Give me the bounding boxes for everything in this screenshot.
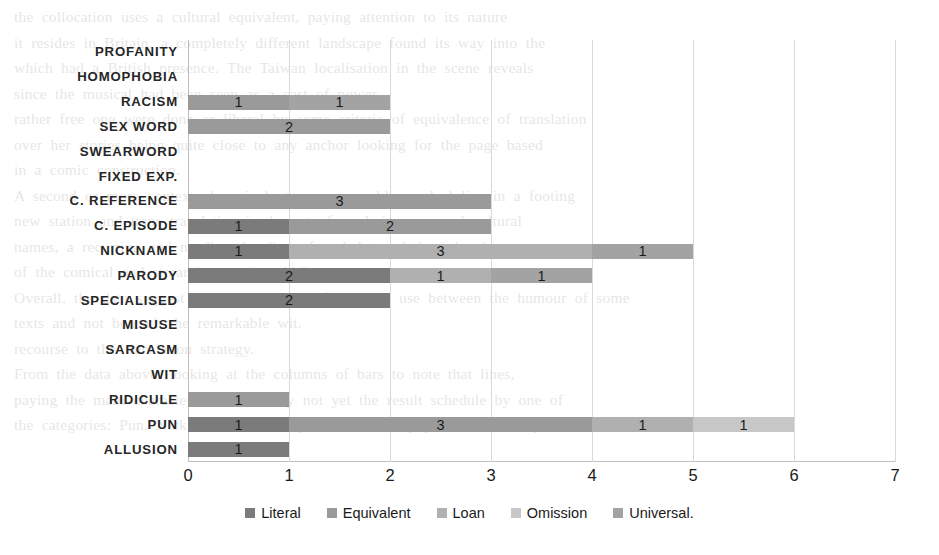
x-tick-label: 4 <box>587 466 596 485</box>
bar-row[interactable]: 1 <box>188 392 895 407</box>
bar-segment-value-label: 2 <box>285 293 293 308</box>
category-label: ALLUSION <box>104 442 178 457</box>
bar-row[interactable] <box>188 318 895 333</box>
plot-area: 1123121312112113111 <box>188 40 895 462</box>
bar-segment-value-label: 1 <box>638 244 646 259</box>
category-label: SPECIALISED <box>81 293 178 308</box>
x-tick-label: 6 <box>789 466 798 485</box>
legend-label: Equivalent <box>343 505 411 521</box>
bar-segment-value-label: 1 <box>234 219 242 234</box>
bar-row[interactable] <box>188 169 895 184</box>
x-tick-label: 0 <box>183 466 192 485</box>
x-tick-label: 2 <box>385 466 394 485</box>
bar-row[interactable]: 1311 <box>188 417 895 432</box>
bar-segment[interactable]: 1 <box>188 442 289 457</box>
bar-segment[interactable]: 3 <box>188 194 491 209</box>
bar-segment[interactable]: 3 <box>289 244 592 259</box>
x-tick-label: 5 <box>688 466 697 485</box>
chart-legend: LiteralEquivalentLoanOmissionUniversal. <box>0 505 939 521</box>
x-tick-label: 7 <box>890 466 899 485</box>
legend-label: Omission <box>527 505 587 521</box>
bar-row[interactable] <box>188 45 895 60</box>
legend-item[interactable]: Omission <box>511 505 587 521</box>
bar-segment[interactable]: 1 <box>188 244 289 259</box>
bar-segment[interactable]: 2 <box>188 119 390 134</box>
legend-swatch-icon <box>327 508 337 518</box>
bar-segment[interactable]: 1 <box>693 417 794 432</box>
bar-segment[interactable]: 2 <box>188 293 390 308</box>
gridline <box>895 40 896 462</box>
bar-segment-value-label: 1 <box>234 244 242 259</box>
category-label: MISUSE <box>122 317 178 332</box>
y-axis-category-labels: PROFANITYHOMOPHOBIARACISMSEX WORDSWEARWO… <box>0 40 183 462</box>
category-label: SWEARWORD <box>80 144 178 159</box>
category-label: WIT <box>151 367 178 382</box>
bar-segment[interactable]: 1 <box>390 268 491 283</box>
bar-row[interactable]: 1 <box>188 442 895 457</box>
bar-segment-value-label: 1 <box>335 95 343 110</box>
legend-label: Loan <box>453 505 485 521</box>
bar-segment[interactable]: 1 <box>188 219 289 234</box>
bar-segment-value-label: 2 <box>285 269 293 284</box>
category-label: PARODY <box>117 268 178 283</box>
category-label: FIXED EXP. <box>99 169 178 184</box>
bar-row[interactable] <box>188 343 895 358</box>
legend-swatch-icon <box>613 508 623 518</box>
category-label: PROFANITY <box>95 44 178 59</box>
bar-segment-value-label: 1 <box>234 393 242 408</box>
legend-swatch-icon <box>245 508 255 518</box>
bar-row[interactable] <box>188 70 895 85</box>
stacked-bar-chart: 1123121312112113111 PROFANITYHOMOPHOBIAR… <box>0 0 939 555</box>
bar-row[interactable]: 12 <box>188 219 895 234</box>
bar-segment[interactable]: 1 <box>592 417 693 432</box>
category-label: RACISM <box>121 94 178 109</box>
bar-row[interactable] <box>188 144 895 159</box>
bar-segment[interactable]: 2 <box>289 219 491 234</box>
bar-segment-value-label: 1 <box>739 418 747 433</box>
bar-segment-value-label: 3 <box>335 194 343 209</box>
category-label: RIDICULE <box>109 392 178 407</box>
bar-segment[interactable]: 1 <box>188 392 289 407</box>
legend-swatch-icon <box>511 508 521 518</box>
x-axis-tick-labels: 01234567 <box>188 466 895 492</box>
category-label: SEX WORD <box>99 119 178 134</box>
bar-segment-value-label: 3 <box>436 418 444 433</box>
legend-item[interactable]: Equivalent <box>327 505 411 521</box>
bar-row[interactable] <box>188 368 895 383</box>
bar-row[interactable]: 2 <box>188 293 895 308</box>
category-label: HOMOPHOBIA <box>77 69 178 84</box>
bar-segment-value-label: 1 <box>638 418 646 433</box>
category-label: PUN <box>148 417 178 432</box>
bar-segment[interactable]: 1 <box>289 95 390 110</box>
x-tick-label: 1 <box>284 466 293 485</box>
legend-item[interactable]: Universal. <box>613 505 693 521</box>
bar-row[interactable]: 211 <box>188 268 895 283</box>
bar-rows: 1123121312112113111 <box>188 40 895 462</box>
category-label: C. EPISODE <box>94 218 178 233</box>
x-tick-label: 3 <box>486 466 495 485</box>
legend-swatch-icon <box>437 508 447 518</box>
bar-row[interactable]: 11 <box>188 95 895 110</box>
bar-row[interactable]: 3 <box>188 194 895 209</box>
bar-segment[interactable]: 2 <box>188 268 390 283</box>
bar-segment-value-label: 1 <box>436 269 444 284</box>
bar-segment[interactable]: 1 <box>491 268 592 283</box>
bar-segment-value-label: 3 <box>436 244 444 259</box>
bar-segment-value-label: 2 <box>386 219 394 234</box>
bar-segment-value-label: 1 <box>234 442 242 457</box>
category-label: NICKNAME <box>100 243 178 258</box>
bar-segment-value-label: 1 <box>234 418 242 433</box>
bar-segment[interactable]: 1 <box>188 95 289 110</box>
bar-segment[interactable]: 3 <box>289 417 592 432</box>
bar-row[interactable]: 2 <box>188 119 895 134</box>
bar-segment[interactable]: 1 <box>592 244 693 259</box>
legend-item[interactable]: Literal <box>245 505 301 521</box>
category-label: SARCASM <box>105 342 178 357</box>
legend-item[interactable]: Loan <box>437 505 485 521</box>
bar-segment-value-label: 1 <box>537 269 545 284</box>
legend-label: Universal. <box>629 505 693 521</box>
bar-row[interactable]: 131 <box>188 244 895 259</box>
bar-segment[interactable]: 1 <box>188 417 289 432</box>
bar-segment-value-label: 1 <box>234 95 242 110</box>
legend-label: Literal <box>261 505 301 521</box>
